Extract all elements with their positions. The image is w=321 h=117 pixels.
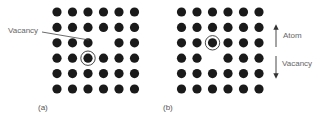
- atom: [239, 23, 248, 32]
- atom: [68, 69, 77, 78]
- atom: [83, 23, 92, 32]
- atom: [223, 23, 232, 32]
- atom: [99, 23, 108, 32]
- atom: [130, 23, 139, 32]
- atom: [239, 7, 248, 16]
- vacancy-arrow-label: Vacancy: [282, 59, 312, 68]
- vacancy-leader-line: [42, 32, 89, 40]
- atom: [130, 69, 139, 78]
- panel-b-lattice: [177, 7, 264, 93]
- atom: [130, 38, 139, 47]
- atom: [208, 23, 217, 32]
- atom: [130, 54, 139, 63]
- atom: [114, 54, 123, 63]
- atom: [254, 38, 263, 47]
- atom: [208, 84, 217, 93]
- atom: [83, 54, 92, 63]
- atom: [254, 69, 263, 78]
- atom: [130, 7, 139, 16]
- vacancy-annotation-label: Vacancy: [8, 26, 38, 35]
- atom: [99, 7, 108, 16]
- atom: [52, 7, 61, 16]
- atom: [177, 69, 186, 78]
- atom: [52, 84, 61, 93]
- atom: [192, 7, 201, 16]
- atom: [99, 54, 108, 63]
- atom: [52, 38, 61, 47]
- atom: [192, 38, 201, 47]
- atom: [223, 7, 232, 16]
- atom: [192, 23, 201, 32]
- atom: [254, 54, 263, 63]
- atom: [239, 38, 248, 47]
- atom: [114, 38, 123, 47]
- atom: [177, 54, 186, 63]
- atom: [223, 38, 232, 47]
- atom: [52, 54, 61, 63]
- atom: [254, 84, 263, 93]
- atom: [254, 7, 263, 16]
- atom: [68, 38, 77, 47]
- atom: [99, 84, 108, 93]
- atom: [83, 7, 92, 16]
- atom: [177, 7, 186, 16]
- atom: [208, 7, 217, 16]
- atom: [177, 38, 186, 47]
- atom: [177, 23, 186, 32]
- atom: [114, 7, 123, 16]
- atom: [192, 54, 201, 63]
- atom: [239, 84, 248, 93]
- atom: [254, 23, 263, 32]
- atom: [68, 7, 77, 16]
- atom: [99, 69, 108, 78]
- panel-a-lattice: [52, 7, 139, 93]
- atom: [114, 84, 123, 93]
- atom: [208, 38, 217, 47]
- atom: [130, 84, 139, 93]
- atom: [52, 69, 61, 78]
- atom: [239, 54, 248, 63]
- panel-b-label: (b): [163, 103, 173, 112]
- atom: [114, 69, 123, 78]
- vacancy-diffusion-diagram: Vacancy (a) (b) Atom Vacancy: [0, 0, 321, 117]
- atom: [68, 84, 77, 93]
- panel-a-label: (a): [38, 103, 48, 112]
- atom: [223, 54, 232, 63]
- atom: [52, 23, 61, 32]
- atom: [83, 84, 92, 93]
- atom: [223, 69, 232, 78]
- atom: [239, 69, 248, 78]
- atom-arrow-label: Atom: [283, 31, 302, 40]
- atom: [83, 69, 92, 78]
- atom: [68, 54, 77, 63]
- atom: [177, 84, 186, 93]
- atom: [223, 84, 232, 93]
- atom: [208, 69, 217, 78]
- atom: [192, 69, 201, 78]
- atom: [68, 23, 77, 32]
- atom: [114, 23, 123, 32]
- atom: [192, 84, 201, 93]
